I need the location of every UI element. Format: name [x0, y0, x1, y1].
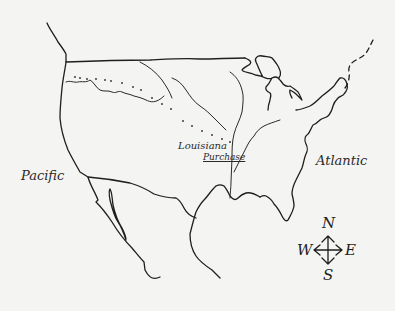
- mississippi-river: [230, 72, 243, 198]
- northern-border: [66, 58, 245, 62]
- compass-north: N: [322, 214, 335, 232]
- louisiana-label: Louisiana: [178, 140, 227, 151]
- missouri-river: [140, 62, 172, 98]
- compass-west: W: [297, 241, 312, 259]
- purchase-label: Purchase: [203, 152, 245, 162]
- baja-california: [109, 189, 126, 240]
- louisiana-purchase-map: Pacific Atlantic Louisiana Purchase N S …: [0, 0, 395, 311]
- atlantic-ocean-label: Atlantic: [316, 153, 367, 168]
- pacific-ocean-label: Pacific: [21, 168, 64, 183]
- compass-south: S: [323, 266, 333, 284]
- compass-rose: [314, 236, 342, 264]
- east-coastline: [260, 78, 347, 221]
- ohio-river: [234, 120, 280, 172]
- maine-dashed-border: [345, 40, 373, 88]
- compass-east: E: [345, 241, 356, 259]
- great-lakes-outline: [242, 56, 302, 110]
- northern-river: [66, 80, 164, 102]
- platte-river: [172, 78, 226, 130]
- gulf-coastline: [190, 185, 260, 278]
- louisiana-purchase-boundary-dots: [74, 76, 231, 143]
